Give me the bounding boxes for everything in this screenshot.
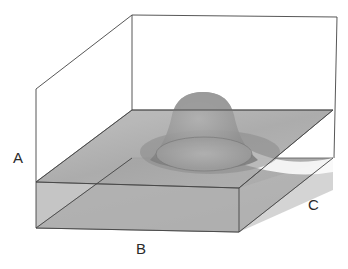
label-c: C [308,196,319,213]
dome-cap [174,92,232,110]
diagram: A B C [0,0,348,269]
diagram-canvas [0,0,348,269]
lower-slab-front [36,182,239,232]
label-a: A [13,149,23,166]
dome-cross-section [156,137,252,171]
label-b: B [136,240,146,257]
